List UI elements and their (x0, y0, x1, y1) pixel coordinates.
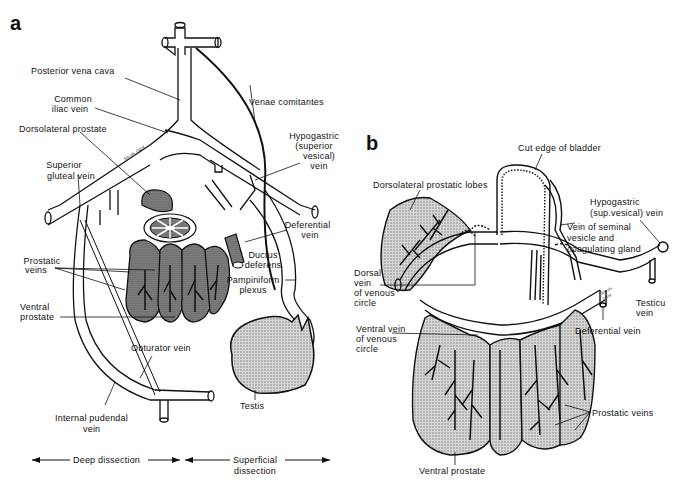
label-dorsolateral-prostatic-lobes: Dorsolateral prostatic lobes (373, 180, 488, 190)
label-common-iliac-vein-line2: iliac vein (45, 104, 95, 114)
label-venae-comitantes: Venae comitantes (249, 97, 324, 107)
label-internal-pudendal-line2: vein (83, 424, 100, 434)
label-prostatic-veins-a-line2: veins (25, 265, 47, 275)
label-common-iliac-vein-line1: Common (50, 94, 96, 104)
panel-label-a: a (10, 12, 21, 35)
label-vein-seminal-line1: Vein of seminal (567, 222, 631, 232)
label-dorsolateral-prostate: Dorsolateral prostate (19, 124, 107, 134)
panel-label-b: b (366, 132, 378, 155)
label-testicular-vein-line2: vein (636, 308, 653, 318)
label-ventral-vein-line3: circle (356, 344, 378, 354)
label-superior-gluteal-line2: gluteal vein (47, 171, 95, 181)
label-ventral-vein-line1: Ventral vein (356, 324, 405, 334)
label-ductus-deferens-line1: Ductus (243, 250, 283, 260)
label-hypogastric-a-line1: Hypogastric (285, 131, 343, 141)
label-deep-dissection: Deep dissection (73, 455, 140, 465)
panel-a-dorsolateral-prostate (142, 190, 196, 242)
panel-b-ventral-prostate (413, 310, 596, 455)
panel-b-dorsolateral-lobes (381, 198, 470, 291)
label-testis: Testis (240, 401, 264, 411)
label-vein-seminal-line3: coagulating gland (567, 244, 641, 254)
label-vein-seminal-line2: vesicle and (567, 233, 614, 243)
label-testicular-vein-line1: Testicu (636, 298, 665, 308)
label-pampiniform-line2: plexus (222, 285, 284, 295)
label-dorsal-vein-line4: circle (354, 298, 376, 308)
label-ductus-deferens-line2: deferens (243, 260, 283, 270)
label-hypogastric-a-line4: vein (290, 161, 348, 171)
label-ventral-vein-line2: of venous (356, 334, 397, 344)
label-deferential-vein-a-line2: vein (285, 230, 335, 240)
label-posterior-vena-cava: Posterior vena cava (31, 66, 114, 76)
label-internal-pudendal-line1: Internal pudendal (55, 413, 128, 423)
label-ventral-prostate-b: Ventral prostate (419, 466, 485, 476)
panel-a-ventral-prostate (126, 240, 230, 322)
label-ventral-prostate-a-line1: Ventral (20, 302, 49, 312)
label-hypogastric-b-line2: (sup.vesical) vein (590, 208, 663, 218)
label-dorsal-vein-line3: of venous (354, 288, 395, 298)
label-pampiniform-line1: Pampiniform (222, 275, 284, 285)
label-superior-gluteal-line1: Superior (44, 160, 84, 170)
label-hypogastric-a-line2: (superior (285, 141, 343, 151)
label-deferential-vein-b: Deferential vein (575, 326, 641, 336)
label-dorsal-vein-line1: Dorsal (354, 268, 381, 278)
label-superficial-dissection-line2: dissection (225, 466, 285, 476)
label-hypogastric-b-line1: Hypogastric (590, 197, 640, 207)
label-obturator-vein: Obturator vein (131, 343, 191, 353)
label-ventral-prostate-a-line2: prostate (20, 312, 54, 322)
label-superficial-dissection-line1: Superficial (225, 455, 285, 465)
panel-a-testis (231, 315, 314, 393)
label-prostatic-veins-b: Prostatic veins (592, 408, 654, 418)
label-dorsal-vein-line2: vein (354, 278, 371, 288)
label-cut-edge-of-bladder: Cut edge of bladder (518, 143, 601, 153)
label-deferential-vein-a-line1: Deferential (280, 220, 335, 230)
label-hypogastric-a-line3: vesical) (290, 151, 348, 161)
